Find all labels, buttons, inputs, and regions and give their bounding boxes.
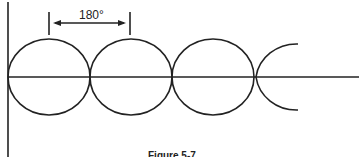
arrowhead-left-icon <box>53 20 61 26</box>
arrowhead-right-icon <box>118 20 126 26</box>
dimension-label: 180° <box>79 8 104 22</box>
wave-loop-diagram <box>0 0 359 157</box>
figure-caption: Figure 5-7 <box>148 150 196 157</box>
